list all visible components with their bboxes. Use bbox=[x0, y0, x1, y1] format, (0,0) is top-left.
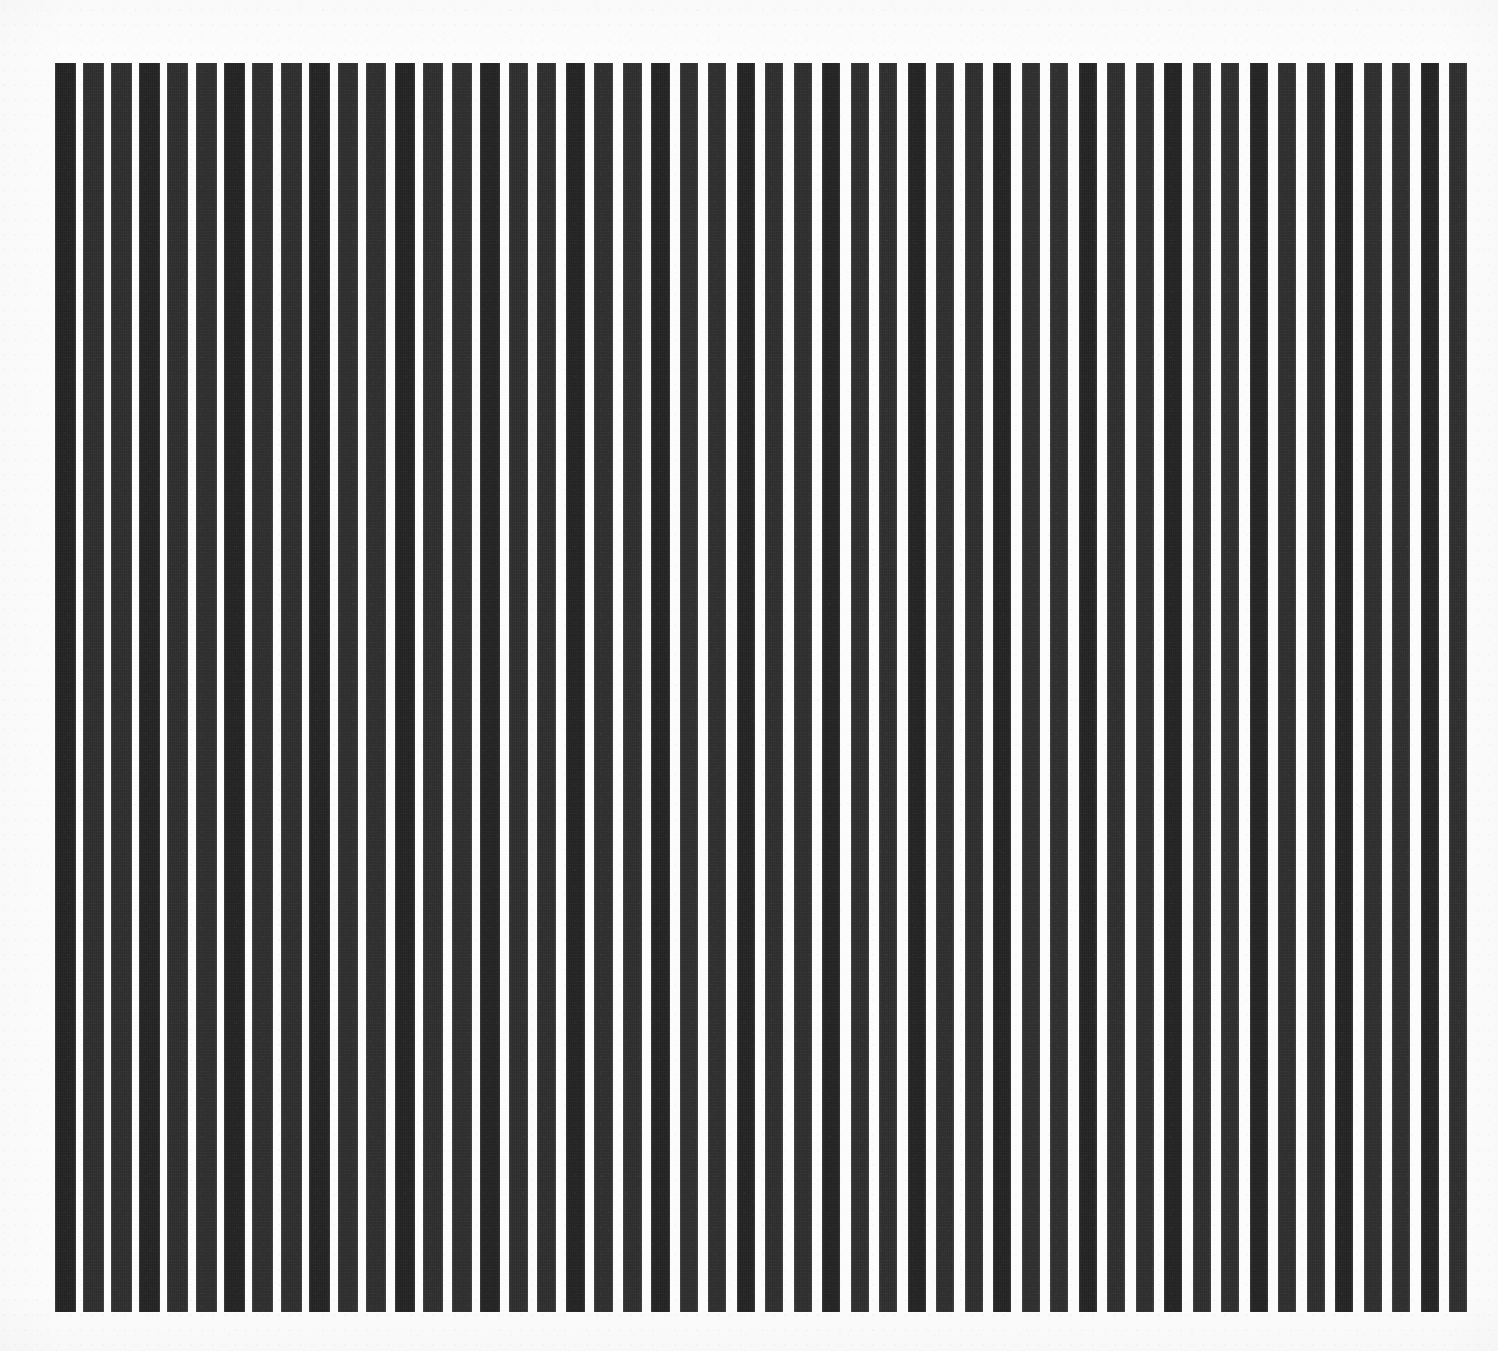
stripe-bar bbox=[993, 63, 1011, 1312]
stripe-bar bbox=[366, 63, 386, 1312]
stripe-bar bbox=[908, 63, 926, 1312]
stripe-bar bbox=[167, 63, 188, 1312]
stripe-bar bbox=[1164, 63, 1182, 1312]
stripe-bar bbox=[623, 63, 642, 1312]
stripe-bar bbox=[281, 63, 302, 1312]
stripe-bar bbox=[1421, 63, 1439, 1312]
stripe-bar bbox=[423, 63, 443, 1312]
stripe-bar bbox=[1193, 63, 1211, 1312]
stripe-bar bbox=[1050, 63, 1068, 1312]
stripe-bar bbox=[537, 63, 556, 1312]
stripe-bar bbox=[1136, 63, 1154, 1312]
stripe-field bbox=[55, 63, 1478, 1312]
stripe-bar bbox=[822, 63, 840, 1312]
stripe-bar bbox=[936, 63, 954, 1312]
stripe-bar bbox=[83, 63, 104, 1312]
stripe-bar bbox=[851, 63, 869, 1312]
stripe-bar bbox=[794, 63, 812, 1312]
stripe-bar bbox=[1278, 63, 1296, 1312]
stripe-bar bbox=[1079, 63, 1097, 1312]
stripe-bar bbox=[1392, 63, 1410, 1312]
stripe-bar bbox=[139, 63, 160, 1312]
stripe-bar bbox=[196, 63, 217, 1312]
stripe-bar bbox=[480, 63, 500, 1312]
stripe-bar bbox=[252, 63, 273, 1312]
stripe-bar bbox=[309, 63, 330, 1312]
stripe-bar bbox=[965, 63, 983, 1312]
stripe-bar bbox=[1022, 63, 1040, 1312]
artwork-canvas: Op art composition of fifty vertical dar… bbox=[0, 0, 1498, 1351]
stripe-bar bbox=[1307, 63, 1325, 1312]
stripe-bar bbox=[452, 63, 472, 1312]
stripe-bar bbox=[879, 63, 897, 1312]
stripe-bar bbox=[765, 63, 783, 1312]
stripe-bar bbox=[111, 63, 132, 1312]
stripe-bar bbox=[737, 63, 755, 1312]
stripe-bar bbox=[1449, 63, 1467, 1312]
stripe-bar bbox=[224, 63, 245, 1312]
stripe-bar bbox=[708, 63, 726, 1312]
stripe-bar bbox=[566, 63, 585, 1312]
stripe-bar bbox=[1364, 63, 1382, 1312]
stripe-bar bbox=[338, 63, 358, 1312]
stripe-bar bbox=[55, 63, 76, 1312]
stripe-bar bbox=[1107, 63, 1125, 1312]
stripe-bar bbox=[651, 63, 670, 1312]
stripe-bar bbox=[594, 63, 613, 1312]
stripe-bar bbox=[395, 63, 415, 1312]
stripe-bar bbox=[1250, 63, 1268, 1312]
stripe-bar bbox=[680, 63, 698, 1312]
stripe-bar bbox=[509, 63, 528, 1312]
stripe-bar bbox=[1335, 63, 1353, 1312]
stripe-bar bbox=[1221, 63, 1239, 1312]
